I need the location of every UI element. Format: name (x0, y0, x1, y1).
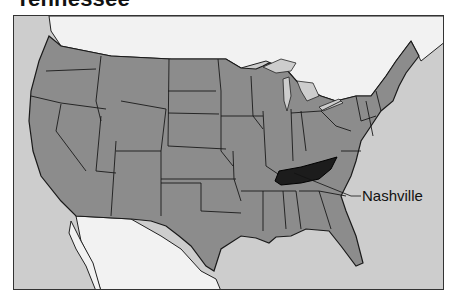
map-graphic (14, 16, 444, 290)
us-map (13, 15, 444, 290)
map-title: Tennessee (16, 0, 130, 12)
capital-label-nashville: Nashville (362, 187, 423, 204)
